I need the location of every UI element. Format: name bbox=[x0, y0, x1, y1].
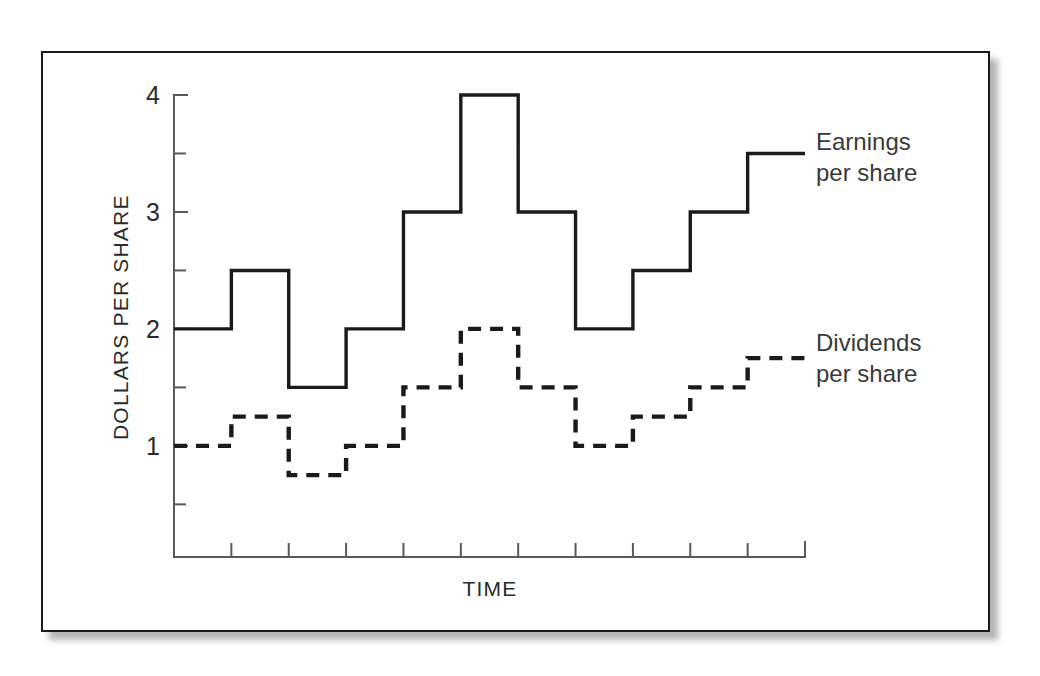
earnings-step-line bbox=[174, 95, 805, 387]
y-axis-tick-labels: 4321 bbox=[146, 81, 160, 460]
dividends-label-line2: per share bbox=[816, 360, 917, 387]
dividends-label-line1: Dividends bbox=[816, 329, 921, 356]
y-tick-label: 3 bbox=[146, 198, 160, 226]
y-tick-label: 2 bbox=[146, 315, 160, 343]
dividends-step-line bbox=[174, 329, 805, 475]
x-axis-title: TIME bbox=[463, 577, 518, 600]
earnings-label-line1: Earnings bbox=[816, 128, 911, 155]
y-tick-label: 4 bbox=[146, 81, 160, 109]
y-axis bbox=[174, 95, 188, 557]
y-tick-label: 1 bbox=[146, 432, 160, 460]
x-axis bbox=[174, 541, 805, 557]
chart-page: 4321 DOLLARS PER SHARE TIME Earnings per… bbox=[0, 0, 1040, 676]
step-chart-plot: 4321 DOLLARS PER SHARE TIME Earnings per… bbox=[0, 0, 1040, 676]
y-axis-title: DOLLARS PER SHARE bbox=[109, 194, 132, 440]
data-series-group bbox=[174, 95, 805, 475]
earnings-label-line2: per share bbox=[816, 159, 917, 186]
